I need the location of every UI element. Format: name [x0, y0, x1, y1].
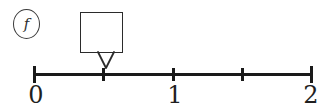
v-pointer-icon [96, 51, 116, 70]
part-label-text: f [14, 10, 39, 38]
tick-label-0: 0 [23, 82, 49, 108]
part-label-circle: f [13, 9, 40, 39]
tick-1-5 [241, 68, 244, 81]
tick-1 [172, 68, 175, 81]
tick-0-5 [102, 68, 105, 81]
tick-label-2: 2 [298, 82, 324, 108]
tick-label-1: 1 [162, 82, 188, 108]
number-line-figure: f 0 1 2 [0, 0, 329, 112]
answer-box[interactable] [80, 12, 123, 53]
